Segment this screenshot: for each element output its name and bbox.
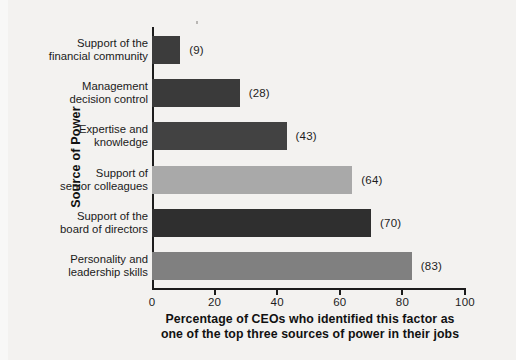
x-axis-tick — [276, 288, 278, 295]
x-axis-tick-label: 40 — [271, 296, 284, 308]
x-axis-tick-label: 100 — [455, 296, 475, 308]
bar-value-label: (43) — [296, 122, 317, 150]
x-axis-tick — [464, 288, 466, 295]
bar — [152, 79, 240, 107]
bar-value-label: (70) — [380, 209, 401, 237]
bar-value-label: (83) — [421, 252, 442, 280]
bar — [152, 209, 371, 237]
category-label: Management decision control — [28, 80, 148, 106]
category-label: Support of senior colleagues — [28, 167, 148, 193]
bar-value-label: (9) — [189, 36, 204, 64]
x-axis-tick-label: 80 — [396, 296, 409, 308]
x-axis-tick-label: 60 — [333, 296, 346, 308]
category-label-group: Support of the financial communityManage… — [24, 28, 148, 288]
scan-speck — [196, 21, 198, 24]
x-axis-title: Percentage of CEOs who identified this f… — [120, 312, 500, 342]
x-axis-line — [152, 288, 466, 290]
category-label: Expertise and knowledge — [28, 123, 148, 149]
plot-area: (9)(28)(43)(64)(70)(83) — [152, 28, 465, 288]
x-axis-tick-label: 0 — [149, 296, 156, 308]
bar — [152, 122, 287, 150]
chart-page: Source of Power Support of the financial… — [0, 0, 516, 360]
bar-value-label: (28) — [249, 79, 270, 107]
category-label: Support of the board of directors — [28, 210, 148, 236]
category-label: Personality and leadership skills — [28, 253, 148, 279]
page-edge-highlight — [0, 0, 8, 360]
bar-value-label: (64) — [361, 166, 382, 194]
category-label: Support of the financial community — [28, 37, 148, 63]
x-axis-tick-label: 20 — [208, 296, 221, 308]
x-axis-tick — [339, 288, 341, 295]
x-axis-tick — [214, 288, 216, 295]
bar — [152, 166, 352, 194]
x-axis-tick — [401, 288, 403, 295]
bar — [152, 36, 180, 64]
bar — [152, 252, 412, 280]
